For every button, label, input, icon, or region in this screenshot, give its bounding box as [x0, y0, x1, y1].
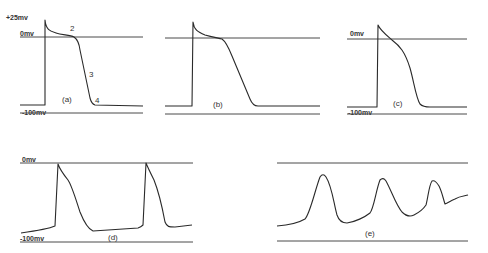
label-minus100mv-d: -100mv: [20, 235, 44, 242]
label-0mv-c: 0mv: [350, 30, 364, 37]
trace-e: [277, 175, 468, 226]
phase-label-3: 3: [89, 70, 94, 79]
label-minus100mv-c: -100mv: [348, 109, 372, 116]
panel-b: (b): [165, 22, 320, 114]
label-plus25mv: +25mv: [6, 14, 28, 21]
trace-d: [21, 163, 192, 233]
trace-c: [347, 25, 467, 107]
phase-label-2: 2: [70, 24, 75, 33]
panel-label-d: (d): [108, 233, 118, 242]
trace-b: [165, 22, 320, 106]
panel-d: 0mv -100mv (d): [20, 156, 193, 242]
label-0mv-d: 0mv: [22, 156, 36, 163]
panel-label-c: (c): [393, 99, 403, 108]
panel-label-a: (a): [62, 95, 72, 104]
panel-label-e: (e): [365, 229, 375, 238]
panel-c: 0mv -100mv (c): [347, 25, 467, 116]
panel-a: +25mv 0mv -100mv 2 3 4 (a): [6, 14, 143, 116]
phase-label-4: 4: [95, 96, 100, 105]
action-potential-figure: +25mv 0mv -100mv 2 3 4 (a) (b) 0mv -100m…: [0, 0, 488, 253]
panel-label-b: (b): [213, 100, 223, 109]
trace-a: [20, 20, 143, 106]
label-0mv-a: 0mv: [20, 30, 34, 37]
panel-e: (e): [277, 163, 468, 241]
